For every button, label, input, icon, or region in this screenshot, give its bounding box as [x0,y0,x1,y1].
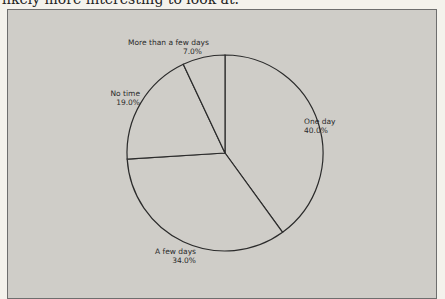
label-more-than-a-few-days: More than a few days 7.0% [128,38,202,56]
label-one-day: One day 40.0% [304,117,335,135]
label-a-few-days-name: A few days [140,247,196,256]
label-no-time-name: No time [108,89,140,98]
label-no-time-pct: 19.0% [108,98,140,107]
label-more-than-name: More than a few days [128,38,202,47]
label-more-than-pct: 7.0% [128,47,202,56]
label-no-time: No time 19.0% [108,89,140,107]
label-one-day-pct: 40.0% [304,126,335,135]
label-one-day-name: One day [304,117,335,126]
label-a-few-days: A few days 34.0% [140,247,196,265]
pie-slices [127,55,323,251]
label-a-few-days-pct: 34.0% [140,256,196,265]
